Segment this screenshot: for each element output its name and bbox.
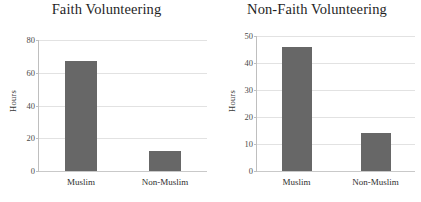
y-axis-tick-label: 20 — [27, 133, 36, 143]
plot-area: 020406080MuslimNon-Muslim — [38, 40, 207, 171]
y-axis-tick-label: 30 — [245, 85, 254, 95]
bar — [282, 47, 312, 171]
bar — [149, 151, 181, 171]
charts-row: Faith Volunteering Hours 020406080Muslim… — [0, 0, 421, 202]
chart-panel-faith-volunteering: Faith Volunteering Hours 020406080Muslim… — [0, 0, 213, 202]
gridline — [257, 171, 415, 172]
gridline — [257, 36, 415, 37]
y-axis-tick-mark — [254, 63, 257, 64]
x-axis-tick-label: Muslim — [67, 177, 95, 187]
y-axis-tick-label: 10 — [245, 139, 254, 149]
y-axis-tick-mark — [36, 138, 39, 139]
y-axis-tick-mark — [254, 90, 257, 91]
y-axis-tick-label: 40 — [27, 101, 36, 111]
y-axis-tick-label: 50 — [245, 31, 254, 41]
chart-panel-non-faith-volunteering: Non-Faith Volunteering Hours 01020304050… — [213, 0, 421, 202]
gridline — [39, 171, 207, 172]
chart-title: Faith Volunteering — [0, 1, 213, 18]
x-axis-tick-label: Non-Muslim — [352, 177, 399, 187]
bar — [361, 133, 391, 171]
y-axis-tick-label: 60 — [27, 68, 36, 78]
y-axis-tick-label: 80 — [27, 35, 36, 45]
y-axis-tick-label: 0 — [31, 166, 35, 176]
y-axis-tick-mark — [36, 40, 39, 41]
y-axis-tick-mark — [36, 106, 39, 107]
bar — [65, 61, 97, 171]
chart-title: Non-Faith Volunteering — [213, 1, 421, 18]
y-axis-tick-mark — [254, 36, 257, 37]
y-axis-tick-label: 40 — [245, 58, 254, 68]
y-axis-label: Hours — [8, 81, 18, 121]
y-axis-tick-mark — [254, 117, 257, 118]
y-axis-tick-label: 0 — [249, 166, 253, 176]
y-axis-tick-mark — [36, 171, 39, 172]
x-axis-tick-label: Muslim — [282, 177, 310, 187]
y-axis-tick-label: 20 — [245, 112, 254, 122]
x-axis-tick-label: Non-Muslim — [142, 177, 189, 187]
y-axis-tick-mark — [254, 171, 257, 172]
y-axis-tick-mark — [254, 144, 257, 145]
gridline — [39, 40, 207, 41]
y-axis-label: Hours — [227, 81, 237, 121]
plot-area: 01020304050MuslimNon-Muslim — [256, 36, 415, 171]
y-axis-tick-mark — [36, 73, 39, 74]
